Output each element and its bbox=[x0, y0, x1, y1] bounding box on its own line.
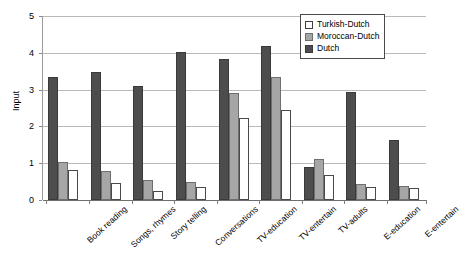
x-axis-category-label: Conversations bbox=[213, 204, 260, 248]
legend-swatch-icon bbox=[305, 33, 313, 41]
bar bbox=[58, 162, 68, 200]
bar bbox=[261, 46, 271, 200]
bar bbox=[389, 140, 399, 200]
bar bbox=[271, 77, 281, 200]
x-tick-mark bbox=[132, 200, 133, 204]
x-axis-category-label: E-education bbox=[381, 204, 421, 242]
bar bbox=[143, 180, 153, 200]
bar bbox=[324, 175, 334, 200]
x-axis-category-label: TV-education bbox=[255, 204, 299, 245]
y-tick-label: 5 bbox=[18, 12, 34, 21]
legend-swatch-icon bbox=[305, 21, 313, 29]
bar bbox=[229, 93, 239, 200]
bar bbox=[356, 184, 366, 200]
y-tick-label: 0 bbox=[18, 196, 34, 205]
bar bbox=[111, 183, 121, 200]
legend-item[interactable]: Moroccan-Dutch bbox=[305, 31, 379, 42]
bar bbox=[239, 118, 249, 200]
x-axis-category-label: Book reading bbox=[85, 204, 129, 245]
bar bbox=[314, 159, 324, 200]
x-tick-mark bbox=[217, 200, 218, 204]
legend-label: Turkish-Dutch bbox=[317, 20, 370, 29]
bar-group bbox=[219, 16, 249, 200]
bar-group bbox=[176, 16, 206, 200]
x-tick-mark bbox=[344, 200, 345, 204]
x-tick-mark bbox=[302, 200, 303, 204]
bar bbox=[186, 182, 196, 200]
x-tick-mark bbox=[259, 200, 260, 204]
legend-swatch-icon bbox=[305, 45, 313, 53]
x-axis-category-label: E-entertain bbox=[423, 204, 461, 239]
y-tick-label: 1 bbox=[18, 159, 34, 168]
bar bbox=[153, 191, 163, 200]
bar bbox=[399, 186, 409, 200]
y-tick-label: 3 bbox=[18, 86, 34, 95]
bar-group bbox=[389, 16, 419, 200]
x-tick-mark bbox=[46, 200, 47, 204]
x-tick-mark bbox=[89, 200, 90, 204]
bar-group bbox=[91, 16, 121, 200]
bar-group bbox=[133, 16, 163, 200]
bar bbox=[101, 171, 111, 200]
bar-group bbox=[261, 16, 291, 200]
y-tick-mark bbox=[39, 200, 42, 201]
bar bbox=[91, 72, 101, 200]
legend-item[interactable]: Dutch bbox=[305, 43, 379, 54]
y-tick-label: 2 bbox=[18, 122, 34, 131]
legend-label: Moroccan-Dutch bbox=[317, 32, 379, 41]
bar-group bbox=[48, 16, 78, 200]
x-tick-mark bbox=[174, 200, 175, 204]
legend-item[interactable]: Turkish-Dutch bbox=[305, 19, 379, 30]
bar bbox=[281, 110, 291, 200]
bar bbox=[133, 86, 143, 200]
bar bbox=[304, 167, 314, 200]
bar bbox=[219, 59, 229, 200]
bar bbox=[409, 188, 419, 200]
bar bbox=[176, 52, 186, 200]
y-tick-label: 4 bbox=[18, 49, 34, 58]
x-axis-line bbox=[43, 200, 427, 201]
bar bbox=[196, 187, 206, 200]
x-axis-category-label: TV-adults bbox=[336, 204, 369, 235]
legend-label: Dutch bbox=[317, 44, 339, 53]
x-axis-category-label: TV-entertain bbox=[296, 204, 337, 242]
bar bbox=[346, 92, 356, 200]
bar bbox=[366, 187, 376, 200]
bar bbox=[48, 77, 58, 200]
chart-legend: Turkish-DutchMoroccan-DutchDutch bbox=[300, 14, 385, 59]
x-tick-mark bbox=[426, 200, 427, 204]
bar bbox=[68, 170, 78, 200]
x-tick-mark bbox=[387, 200, 388, 204]
x-axis-category-label: Songs, rhymes bbox=[129, 204, 178, 249]
